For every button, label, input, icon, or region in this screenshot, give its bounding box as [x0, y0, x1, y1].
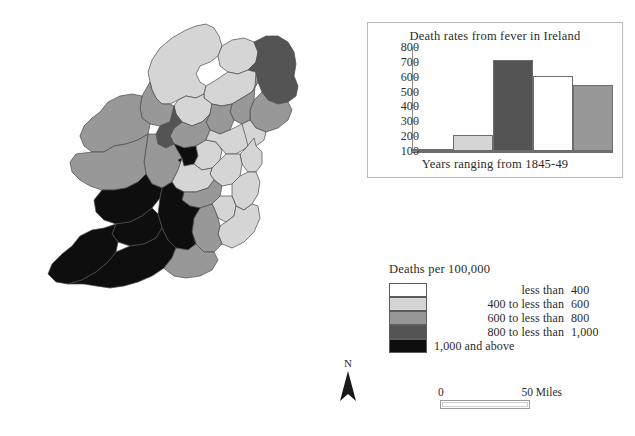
chart-bar [453, 135, 493, 151]
scale-bar-max-label: 50 Miles [521, 386, 562, 398]
chart-bar [573, 85, 613, 151]
north-arrow: N [335, 358, 361, 404]
legend-row-value: 400 [571, 283, 611, 298]
chart-x-axis-label: Years ranging from 1845-49 [373, 157, 617, 172]
scale-bar-graphic [440, 400, 530, 409]
chart-bar [493, 60, 533, 151]
legend-swatch [389, 297, 427, 311]
map-svg [0, 0, 360, 420]
chart-x-axis-line [412, 151, 613, 153]
north-arrow-icon [335, 369, 361, 403]
chart-plot-area [413, 47, 613, 151]
legend-row: 600 to less than800 [389, 311, 611, 325]
north-arrow-letter: N [335, 358, 361, 369]
county-antrim [248, 36, 298, 104]
ireland-choropleth-map [0, 0, 360, 420]
legend-row-label: 600 to less than [427, 311, 571, 326]
legend-row-value: 600 [571, 297, 611, 312]
legend-swatch [389, 283, 427, 297]
scale-bar-labels: 0 50 Miles [440, 386, 530, 400]
legend-row-value: 1,000 [571, 325, 611, 340]
legend-row-label: 1,000 and above [427, 339, 611, 354]
legend-swatch [389, 311, 427, 325]
fever-death-rate-chart: Death rates from fever in Ireland 800700… [367, 22, 623, 178]
legend-row-label: 800 to less than [427, 325, 571, 340]
legend-row-label: 400 to less than [427, 297, 571, 312]
legend-swatch [389, 325, 427, 339]
scale-bar-zero-label: 0 [438, 386, 444, 398]
map-scale-bar: 0 50 Miles [440, 386, 530, 409]
legend-row: less than400 [389, 283, 611, 297]
chart-inner: Death rates from fever in Ireland 800700… [373, 27, 617, 173]
legend-row: 800 to less than1,000 [389, 325, 611, 339]
scale-bar-graphic-inner [442, 402, 528, 407]
chart-y-tick-mark [412, 151, 417, 152]
map-legend: Deaths per 100,000 less than400400 to le… [389, 262, 611, 353]
legend-row-value: 800 [571, 311, 611, 326]
legend-title: Deaths per 100,000 [389, 262, 611, 277]
legend-swatch [389, 339, 427, 353]
chart-bar [413, 149, 453, 151]
legend-rows: less than400400 to less than600600 to le… [389, 283, 611, 353]
legend-row-label: less than [427, 283, 571, 298]
legend-row: 400 to less than600 [389, 297, 611, 311]
chart-bar [533, 76, 573, 151]
legend-row: 1,000 and above [389, 339, 611, 353]
